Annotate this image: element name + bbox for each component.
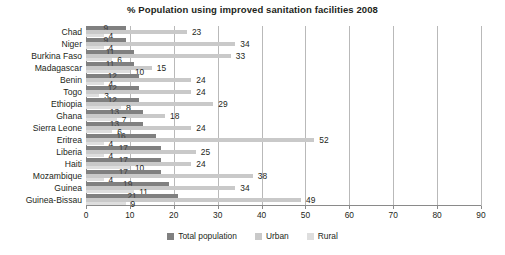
- bar-rural: [86, 178, 104, 182]
- bar-row: Burkina Faso11336: [86, 50, 481, 62]
- category-label: Togo: [63, 87, 82, 97]
- category-label: Benin: [60, 75, 82, 85]
- bar-value-urban: 24: [196, 75, 205, 85]
- category-label: Mozambique: [33, 171, 82, 181]
- category-label: Haiti: [65, 159, 82, 169]
- category-label: Ghana: [56, 111, 82, 121]
- x-tick: [481, 206, 482, 209]
- bar-urban: [86, 90, 191, 94]
- bar-value-urban: 38: [258, 171, 267, 181]
- category-label: Niger: [61, 39, 82, 49]
- bar-rural: [86, 82, 104, 86]
- x-tick: [218, 206, 219, 209]
- bar-urban: [86, 138, 314, 142]
- x-tick-label: 80: [432, 210, 441, 220]
- chart-legend: Total populationUrbanRural: [0, 231, 505, 241]
- bar-row: Chad9234: [86, 26, 481, 38]
- bar-value-urban: 49: [306, 195, 315, 205]
- legend-label: Rural: [318, 231, 338, 241]
- x-tick-label: 90: [476, 210, 485, 220]
- category-label: Guinea: [54, 183, 82, 193]
- bar-row: Eritrea16524: [86, 134, 481, 146]
- chart-title: % Population using improved sanitation f…: [0, 4, 505, 15]
- bar-row: Guinea193411: [86, 182, 481, 194]
- bar-row: Togo12243: [86, 86, 481, 98]
- legend-swatch-icon: [255, 233, 262, 240]
- bar-value-urban: 24: [196, 87, 205, 97]
- x-tick-label: 10: [125, 210, 134, 220]
- x-tick-label: 0: [84, 210, 89, 220]
- x-tick: [437, 206, 438, 209]
- x-tick: [262, 206, 263, 209]
- bar-row: Haiti172410: [86, 158, 481, 170]
- bar-value-urban: 34: [240, 183, 249, 193]
- bar-rural: [86, 142, 104, 146]
- bar-value-urban: 25: [201, 147, 210, 157]
- bar-value-urban: 33: [236, 51, 245, 61]
- bar-row: Ghana13187: [86, 110, 481, 122]
- x-tick: [130, 206, 131, 209]
- category-label: Eritrea: [57, 135, 82, 145]
- x-tick-label: 30: [213, 210, 222, 220]
- bar-row: Ethiopia12298: [86, 98, 481, 110]
- legend-swatch-icon: [167, 233, 174, 240]
- legend-label: Urban: [266, 231, 289, 241]
- x-tick: [349, 206, 350, 209]
- x-tick: [86, 206, 87, 209]
- x-tick: [393, 206, 394, 209]
- bar-rows: Chad9234Niger9344Burkina Faso11336Madaga…: [86, 26, 481, 206]
- legend-label: Total population: [178, 231, 237, 241]
- category-label: Chad: [61, 27, 82, 37]
- x-tick-label: 50: [301, 210, 310, 220]
- gridline: [481, 26, 482, 206]
- sanitation-bar-chart: % Population using improved sanitation f…: [0, 0, 505, 255]
- x-axis: 0102030405060708090: [86, 206, 481, 224]
- x-tick: [305, 206, 306, 209]
- legend-swatch-icon: [307, 233, 314, 240]
- bar-rural: [86, 94, 99, 98]
- bar-value-urban: 29: [218, 99, 227, 109]
- x-tick-label: 20: [169, 210, 178, 220]
- category-label: Guinea-Bissau: [26, 195, 82, 205]
- bar-value-urban: 52: [319, 135, 328, 145]
- bar-rural: [86, 34, 104, 38]
- bar-value-urban: 34: [240, 39, 249, 49]
- bar-row: Liberia17254: [86, 146, 481, 158]
- bar-rural: [86, 154, 104, 158]
- legend-item[interactable]: Rural: [307, 231, 338, 241]
- bar-rural: [86, 130, 112, 134]
- bar-row: Madagascar111510: [86, 62, 481, 74]
- bar-row: Guinea-Bissau21499: [86, 194, 481, 206]
- legend-item[interactable]: Urban: [255, 231, 289, 241]
- x-tick: [174, 206, 175, 209]
- category-label: Ethiopia: [51, 99, 82, 109]
- category-label: Liberia: [56, 147, 82, 157]
- bar-row: Sierra Leone13246: [86, 122, 481, 134]
- x-tick-label: 40: [257, 210, 266, 220]
- bar-value-urban: 15: [157, 63, 166, 73]
- bar-value-urban: 23: [192, 27, 201, 37]
- bar-row: Niger9344: [86, 38, 481, 50]
- bar-row: Mozambique17384: [86, 170, 481, 182]
- x-tick-label: 60: [345, 210, 354, 220]
- category-label: Madagascar: [35, 63, 82, 73]
- bar-value-urban: 24: [196, 159, 205, 169]
- bar-value-urban: 18: [170, 111, 179, 121]
- bar-rural: [86, 46, 104, 50]
- bar-rural: [86, 202, 126, 206]
- plot-area: Chad9234Niger9344Burkina Faso11336Madaga…: [86, 26, 481, 206]
- category-label: Sierra Leone: [33, 123, 82, 133]
- category-label: Burkina Faso: [31, 51, 82, 61]
- legend-item[interactable]: Total population: [167, 231, 237, 241]
- bar-value-urban: 24: [196, 123, 205, 133]
- x-tick-label: 70: [389, 210, 398, 220]
- bar-row: Benin12244: [86, 74, 481, 86]
